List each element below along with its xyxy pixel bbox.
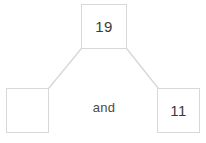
part-right-value: 11: [170, 103, 187, 118]
conjunction-label: and: [80, 100, 128, 115]
number-bond-diagram: 19 and 11: [0, 0, 206, 143]
connector-whole-to-right-part: [127, 49, 158, 88]
connector-whole-to-left-part: [49, 49, 81, 88]
part-box-left[interactable]: [6, 88, 49, 133]
whole-value: 19: [95, 19, 113, 34]
whole-box[interactable]: 19: [81, 4, 127, 49]
part-box-right[interactable]: 11: [157, 88, 200, 133]
